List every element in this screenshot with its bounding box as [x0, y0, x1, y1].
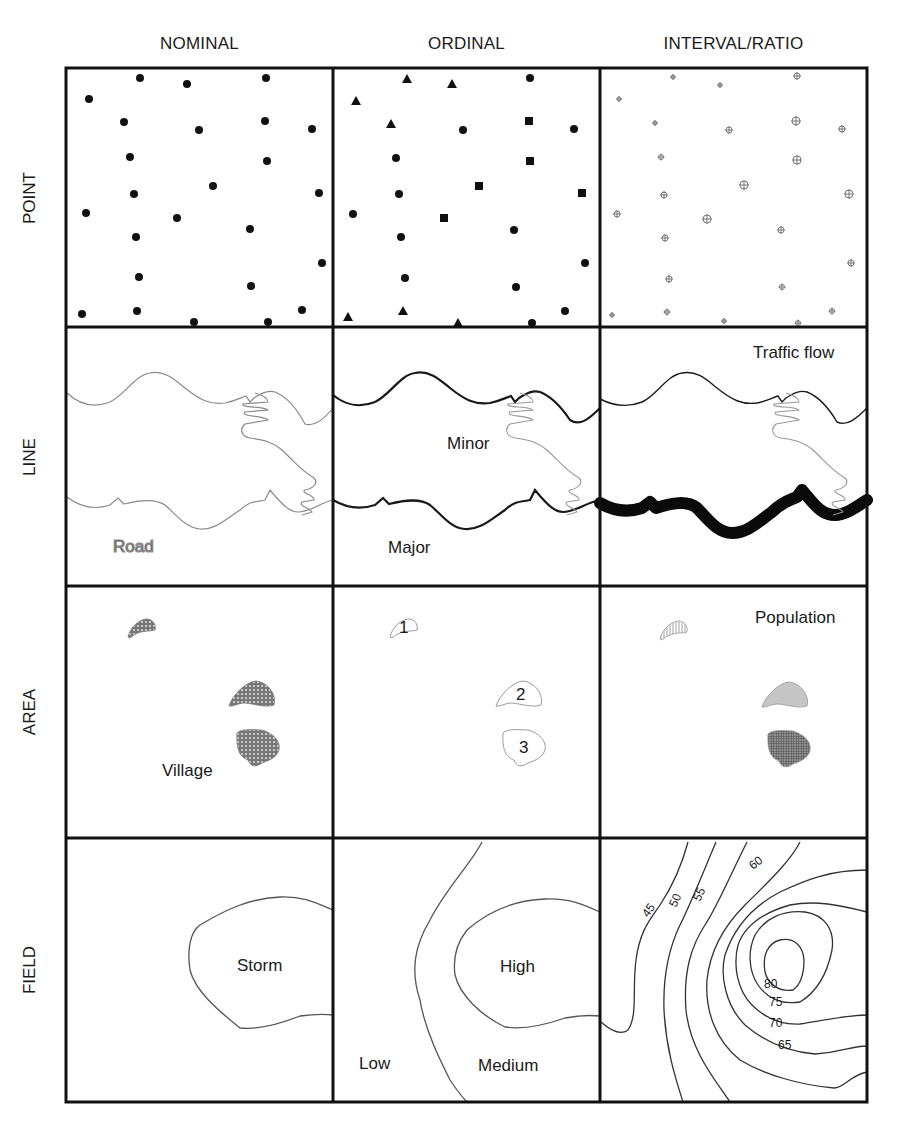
contour-55-label: 55 — [690, 885, 708, 903]
cell-point-interval — [609, 72, 855, 327]
major-label: Major — [388, 538, 431, 557]
low-label: Low — [359, 1054, 391, 1073]
contour-65-label: 65 — [778, 1038, 792, 1052]
contour-45-label: 45 — [639, 900, 658, 919]
contour-70-label: 70 — [769, 1016, 783, 1030]
cell-point-ordinal — [343, 74, 589, 327]
contour-60-label: 60 — [746, 853, 765, 872]
cell-area-nominal: Village — [128, 619, 279, 780]
cell-field-interval: 45 50 55 60 65 70 75 80 — [601, 842, 867, 1102]
cell-line-interval: Traffic flow — [600, 343, 867, 533]
cell-point-nominal — [78, 74, 326, 326]
contour-50-label: 50 — [666, 891, 684, 909]
cell-field-nominal: Storm — [189, 897, 333, 1028]
matrix-frame — [66, 68, 867, 1102]
data-type-matrix: Road Minor Major Traffic flow Village 1 … — [0, 0, 900, 1131]
rank-3-label: 3 — [519, 738, 528, 757]
cell-line-ordinal: Minor Major — [333, 372, 600, 557]
road-label: Road — [113, 537, 154, 556]
population-label: Population — [755, 608, 835, 627]
rank-1-label: 1 — [399, 618, 408, 637]
cell-line-nominal: Road — [67, 372, 333, 556]
high-label: High — [500, 957, 535, 976]
contour-80-label: 80 — [764, 977, 778, 991]
village-label: Village — [162, 761, 213, 780]
cell-area-interval: Population — [660, 608, 835, 767]
minor-label: Minor — [447, 434, 490, 453]
traffic-flow-label: Traffic flow — [753, 343, 835, 362]
rank-2-label: 2 — [516, 685, 525, 704]
contour-75-label: 75 — [769, 995, 783, 1009]
cell-area-ordinal: 1 2 3 — [390, 618, 545, 766]
cell-field-ordinal: High Medium Low — [359, 842, 600, 1102]
medium-label: Medium — [478, 1056, 538, 1075]
storm-label: Storm — [237, 956, 282, 975]
